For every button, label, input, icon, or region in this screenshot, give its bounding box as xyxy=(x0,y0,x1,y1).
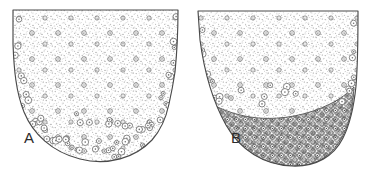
figure-container: A B xyxy=(0,0,375,173)
panel-b: B xyxy=(198,11,359,166)
panel-b-label: B xyxy=(231,129,242,146)
histology-figure-svg: A B xyxy=(0,0,375,173)
panel-a: A xyxy=(12,10,179,162)
panel-a-label: A xyxy=(24,129,35,146)
